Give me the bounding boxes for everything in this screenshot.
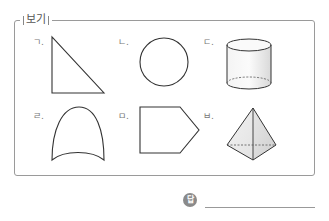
- triangular-pyramid-shape: [227, 108, 276, 160]
- answer-icon: 답: [183, 193, 197, 207]
- cylinder-shape: [227, 39, 271, 89]
- circle-shape: [140, 38, 188, 86]
- pentagon-shape: [140, 107, 199, 153]
- answer-input-line[interactable]: [205, 207, 315, 208]
- curved-arch-shape: [52, 107, 104, 160]
- right-triangle-shape: [52, 37, 104, 93]
- shapes-canvas: [0, 0, 329, 221]
